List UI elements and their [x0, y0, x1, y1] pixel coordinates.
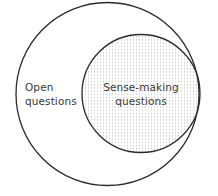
open-questions-label-line-1: Open [25, 80, 77, 94]
sense-making-questions-label-line-2: questions [100, 94, 182, 108]
open-questions-label-line-2: questions [25, 94, 77, 108]
sense-making-questions-label-line-1: Sense-making [100, 80, 182, 94]
open-questions-label: Open questions [25, 80, 77, 108]
sense-making-questions-label: Sense-making questions [100, 80, 182, 108]
